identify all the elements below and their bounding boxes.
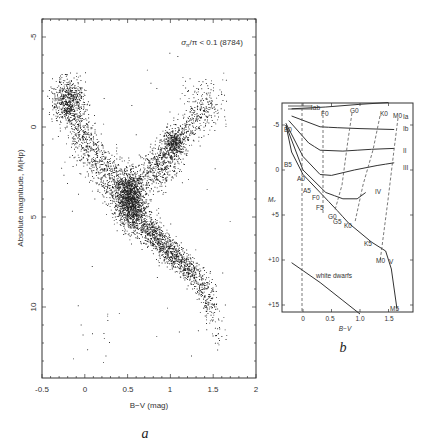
label-ms-k0: K0 [344, 222, 352, 229]
x-tick-label: -0.5 [35, 385, 49, 394]
label-iii: III [403, 164, 409, 171]
panel-a-scatter-points [47, 53, 230, 363]
b-x-tick-label: 0.5 [325, 315, 334, 322]
label-top-f0: F0 [321, 110, 329, 117]
label-ms-f0: F0 [312, 194, 320, 201]
label-ms-m0: M0 [376, 257, 385, 264]
label-v: V [389, 258, 394, 265]
b-y-tick-label: +5 [272, 211, 280, 218]
x-tick-label: 1 [168, 385, 173, 394]
panel-b-xlabel: B−V [339, 325, 352, 332]
label-ms-b5: B5 [284, 161, 292, 168]
label-ms-k5: K5 [364, 240, 372, 247]
y-tick-label: -5 [29, 33, 38, 41]
label-ib: Ib [403, 125, 409, 132]
label-top-g0: G0 [350, 107, 359, 114]
dashed-line-m0 [380, 118, 398, 262]
label-ms-a5: A5 [303, 187, 311, 194]
label-ms-g5: G5 [333, 218, 342, 225]
label-top-k0: K0 [380, 110, 388, 117]
figure: σπ/π < 0.1 (8784) -0.5 0 0.5 1 1.5 2 B−V… [0, 0, 427, 445]
b-y-tick-label: +15 [268, 301, 279, 308]
panel-a: σπ/π < 0.1 (8784) -0.5 0 0.5 1 1.5 2 B−V… [16, 19, 259, 441]
y-tick-label: 10 [29, 302, 38, 311]
b-y-tick-label: +10 [268, 256, 279, 263]
label-ms-m5: M5 [390, 305, 399, 312]
label-ms-b0: B0 [284, 126, 292, 133]
label-ms-f5: F5 [316, 204, 324, 211]
panel-b-luminosity-curves [286, 103, 397, 315]
b-x-tick-label: 1.5 [384, 315, 393, 322]
x-tick-label: 2 [254, 385, 259, 394]
panel-b-ylabel: Mᵥ [268, 196, 276, 203]
panel-b-caption: b [340, 340, 347, 355]
b-x-tick-label: 0 [301, 315, 305, 322]
white-dwarfs-label: white dwarfs [315, 272, 353, 279]
b-y-tick-label: -5 [273, 121, 279, 128]
label-ms-a0: A0 [297, 175, 305, 182]
luminosity-curve-iv [286, 125, 366, 199]
x-tick-label: 0 [83, 385, 88, 394]
panel-b: Iab Ia Ib II III IV V F0 G0 K0 M0 B0 B5 … [268, 103, 413, 356]
b-y-tick-label: 0 [275, 166, 279, 173]
y-tick-label: 5 [29, 214, 38, 219]
label-iv: IV [375, 188, 382, 195]
panel-a-xlabel: B−V (mag) [130, 401, 169, 410]
x-tick-label: 1.5 [207, 385, 219, 394]
label-top-m0: M0 [393, 112, 402, 119]
label-ii: II [403, 147, 407, 154]
label-iab: Iab [311, 104, 320, 111]
b-x-tick-label: 1.0 [355, 315, 364, 322]
panel-a-ylabel: Absolute magnitude, M(Hp) [16, 149, 25, 247]
label-ia: Ia [403, 113, 409, 120]
x-tick-label: 0.5 [122, 385, 134, 394]
panel-a-annotation: σπ/π < 0.1 (8784) [181, 38, 243, 48]
y-tick-label: 0 [29, 124, 38, 129]
luminosity-curve-ii [289, 121, 394, 152]
panel-a-caption: a [142, 426, 149, 441]
